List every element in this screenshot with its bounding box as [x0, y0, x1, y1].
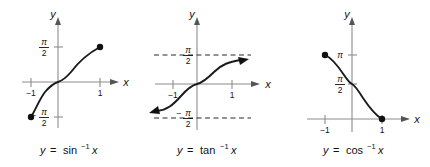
pi-denominator: 2	[186, 119, 191, 129]
x-tick-label-1: 1	[230, 90, 235, 100]
inverse-trig-figure: y x −1 1 π 2 − π 2 y = sin −1	[0, 0, 430, 167]
y-axis-label: y	[49, 8, 57, 20]
x-axis-label: x	[122, 76, 129, 88]
caption-equals: =	[50, 144, 56, 156]
y-axis-arrowhead	[55, 17, 61, 25]
x-axis-label: x	[264, 78, 271, 90]
x-axis-arrowhead	[401, 116, 410, 122]
panel-arctan: y x −1 1 π 2 − π 2 y = tan −1	[143, 0, 286, 167]
curve-arrowhead-right	[238, 57, 249, 65]
y-axis-label: y	[188, 8, 196, 20]
pi-numerator: π	[337, 74, 343, 84]
caption-function: sin	[63, 144, 77, 156]
y-axis-label: y	[343, 8, 351, 20]
caption-function: cos	[346, 144, 364, 156]
caption-lhs: y	[322, 144, 330, 156]
caption-exponent: −1	[367, 142, 376, 151]
pi-denominator: 2	[42, 48, 47, 58]
endpoint-dot-right	[97, 44, 103, 50]
x-tick-label-neg1: −1	[168, 90, 178, 100]
caption-lhs: y	[176, 144, 184, 156]
caption-exponent: −1	[220, 142, 229, 151]
minus-sign: −	[177, 108, 182, 118]
panel-arccos: y x −1 1 π π 2 y = cos −1 x	[287, 0, 430, 167]
panel-caption: y = tan −1 x	[176, 142, 237, 156]
x-axis-label: x	[413, 113, 420, 125]
y-tick-label-pi: π	[337, 50, 343, 60]
x-axis-arrowhead	[251, 81, 260, 87]
pi-numerator: π	[185, 108, 191, 118]
x-tick-label-neg1: −1	[26, 88, 36, 98]
caption-arg: x	[91, 144, 98, 156]
panel-caption: y = sin −1 x	[39, 142, 98, 156]
pi-denominator: 2	[338, 85, 343, 95]
pi-denominator: 2	[42, 118, 47, 128]
pi-denominator: 2	[186, 56, 191, 66]
endpoint-dot-right	[379, 116, 385, 122]
y-tick-label-pi-over-2: π 2	[183, 45, 193, 66]
pi-numerator: π	[185, 45, 191, 55]
caption-equals: =	[187, 144, 193, 156]
x-tick-label-1: 1	[380, 125, 385, 135]
endpoint-dot-left	[322, 52, 328, 58]
y-axis-arrowhead	[194, 17, 200, 25]
y-tick-label-neg-pi-over-2: − π 2	[32, 107, 49, 128]
caption-arg: x	[230, 144, 237, 156]
caption-equals: =	[333, 144, 339, 156]
panel-caption: y = cos −1 x	[322, 142, 384, 156]
arctan-curve	[157, 60, 241, 111]
x-tick-label-1: 1	[98, 88, 103, 98]
curve-arrowhead-left	[149, 106, 160, 114]
minus-sign: −	[32, 110, 37, 120]
caption-function: tan	[200, 144, 215, 156]
pi-numerator: π	[41, 37, 47, 47]
caption-arg: x	[377, 144, 384, 156]
x-tick-label-neg1: −1	[320, 125, 330, 135]
pi-numerator: π	[41, 107, 47, 117]
y-tick-label-neg-pi-over-2: − π 2	[177, 108, 193, 129]
caption-lhs: y	[39, 144, 47, 156]
arccos-curve	[325, 55, 382, 119]
panel-arcsin: y x −1 1 π 2 − π 2 y = sin −1	[0, 0, 143, 167]
y-tick-label-pi-over-2: π 2	[335, 74, 345, 95]
x-axis-arrowhead	[110, 79, 119, 85]
y-tick-label-pi-over-2: π 2	[39, 37, 49, 58]
caption-exponent: −1	[81, 142, 90, 151]
y-axis-arrowhead	[349, 17, 355, 25]
